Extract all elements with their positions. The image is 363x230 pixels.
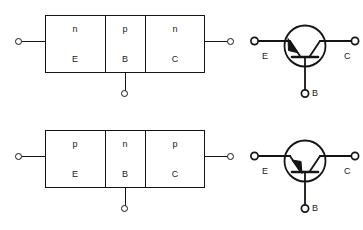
- npn-base-node-icon: [121, 90, 128, 97]
- pnp-region-emitter: p E: [45, 130, 105, 188]
- npn-symbol-label-collector: C: [344, 51, 351, 61]
- pnp-block-diagram: p E n B p C: [0, 115, 230, 230]
- pnp-unit: p E n B p C: [0, 115, 363, 230]
- pnp-collector-terminal: C: [172, 169, 179, 179]
- pnp-symbol-label-emitter: E: [262, 166, 268, 176]
- npn-region-collector: n C: [145, 15, 205, 73]
- npn-collector-slope: [310, 41, 320, 56]
- pnp-base-terminal-node-icon: [301, 205, 308, 212]
- pnp-emitter-lead: [22, 156, 46, 157]
- npn-base-terminal-node-icon: [301, 90, 308, 97]
- npn-unit: n E p B n C: [0, 0, 363, 115]
- npn-emitter-arrow-icon: [288, 39, 297, 53]
- pnp-region-collector: p C: [145, 130, 205, 188]
- npn-symbol-label-emitter: E: [262, 51, 268, 61]
- npn-base-terminal: B: [122, 54, 128, 64]
- npn-base-dopant: p: [122, 24, 127, 34]
- npn-emitter-terminal-node-icon: [251, 37, 258, 44]
- pnp-emitter-terminal-node-icon: [251, 152, 258, 159]
- pnp-symbol: E C B: [240, 115, 363, 230]
- npn-emitter-node-icon: [15, 38, 22, 45]
- pnp-base-terminal: B: [122, 169, 128, 179]
- pnp-emitter-dopant: p: [72, 139, 77, 149]
- pnp-collector-terminal-node-icon: [351, 152, 358, 159]
- npn-emitter-terminal: E: [72, 54, 78, 64]
- npn-region-base: p B: [105, 15, 145, 73]
- transistor-figure: n E p B n C: [0, 0, 363, 230]
- pnp-symbol-label-collector: C: [344, 166, 351, 176]
- pnp-region-base: n B: [105, 130, 145, 188]
- pnp-base-dopant: n: [122, 139, 127, 149]
- pnp-collector-node-icon: [227, 153, 234, 160]
- npn-emitter-lead: [22, 41, 46, 42]
- pnp-emitter-node-icon: [15, 153, 22, 160]
- pnp-symbol-label-base: B: [312, 203, 318, 213]
- npn-base-lead: [125, 72, 126, 91]
- npn-emitter-dopant: n: [72, 24, 77, 34]
- npn-collector-lead: [204, 41, 228, 42]
- pnp-base-lead: [125, 187, 126, 206]
- npn-collector-terminal-node-icon: [351, 37, 358, 44]
- pnp-emitter-terminal: E: [72, 169, 78, 179]
- pnp-collector-slope: [310, 156, 320, 171]
- pnp-collector-dopant: p: [172, 139, 177, 149]
- npn-collector-dopant: n: [172, 24, 177, 34]
- npn-symbol-label-base: B: [312, 88, 318, 98]
- npn-block-diagram: n E p B n C: [0, 0, 230, 115]
- npn-symbol: E C B: [240, 0, 363, 115]
- npn-collector-terminal: C: [172, 54, 179, 64]
- pnp-collector-lead: [204, 156, 228, 157]
- pnp-base-node-icon: [121, 205, 128, 212]
- npn-region-emitter: n E: [45, 15, 105, 73]
- npn-collector-node-icon: [227, 38, 234, 45]
